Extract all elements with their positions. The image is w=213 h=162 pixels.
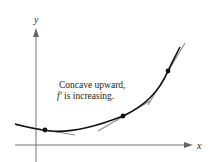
annotation: Concave upward, f′ is increasing.	[57, 80, 125, 101]
x-axis-arrow-icon	[184, 142, 193, 148]
point-marker	[121, 114, 126, 119]
y-axis: y	[33, 14, 39, 162]
annotation-line-2: f′ is increasing.	[57, 91, 114, 101]
y-axis-arrow-icon	[33, 28, 39, 37]
y-axis-label: y	[33, 14, 39, 25]
annotation-line-1: Concave upward,	[59, 80, 125, 90]
point-marker	[43, 128, 48, 133]
concavity-diagram: x y Concave upward, f′ is increasing.	[0, 0, 213, 162]
point-marker	[166, 69, 171, 74]
x-axis: x	[15, 140, 202, 151]
x-axis-label: x	[196, 140, 202, 151]
annotation-line-2-text: is increasing.	[62, 91, 115, 101]
